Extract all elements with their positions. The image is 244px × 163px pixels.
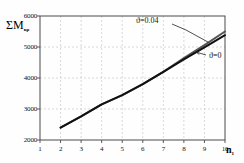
annotation-theta-004: ϑ=0.04 <box>136 16 158 25</box>
y-axis-label-subscript: кр <box>24 27 29 32</box>
y-axis-label: ΣMкр <box>6 18 29 33</box>
x-tick-label: 1 <box>32 145 48 153</box>
x-tick-label: 4 <box>94 145 110 153</box>
annotation-theta-0: ϑ=0 <box>209 51 221 60</box>
y-tick-label: 3000 <box>14 105 37 113</box>
gridlines <box>40 16 225 140</box>
x-tick-label: 7 <box>155 145 171 153</box>
chart-container: 20003000400050006000 12345678910 ΣMкр n1… <box>0 0 244 163</box>
x-axis-label: n1 <box>226 144 234 156</box>
y-tick-label: 5000 <box>14 43 37 51</box>
y-tick-label: 4000 <box>14 74 37 82</box>
annotation-leader-lines <box>172 24 209 55</box>
x-tick-label: 3 <box>73 145 89 153</box>
x-axis-label-subscript: 1 <box>232 151 235 156</box>
x-tick-label: 2 <box>53 145 69 153</box>
x-tick-label: 9 <box>196 145 212 153</box>
x-tick-label: 5 <box>114 145 130 153</box>
x-tick-label: 6 <box>135 145 151 153</box>
x-tick-label: 8 <box>176 145 192 153</box>
y-tick-label: 2000 <box>14 136 37 144</box>
y-axis-label-symbol: ΣM <box>6 18 24 32</box>
